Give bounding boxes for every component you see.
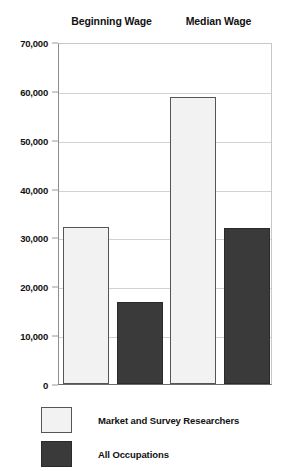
legend-item: All Occupations bbox=[41, 440, 271, 468]
y-axis-label: 60,000 bbox=[20, 86, 48, 97]
wage-comparison-bar-chart: Beginning Wage Median Wage 70,00060,0005… bbox=[0, 0, 283, 471]
y-axis: 70,00060,00050,00040,00030,00020,00010,0… bbox=[0, 43, 58, 385]
legend-label: All Occupations bbox=[98, 449, 169, 460]
category-header-row: Beginning Wage Median Wage bbox=[58, 14, 272, 34]
legend-swatch bbox=[41, 441, 72, 467]
bar bbox=[224, 228, 270, 384]
bar bbox=[170, 97, 216, 384]
legend-swatch bbox=[41, 407, 72, 433]
bar bbox=[117, 302, 163, 384]
bar bbox=[63, 227, 109, 384]
y-axis-label: 0 bbox=[43, 380, 48, 391]
y-axis-label: 20,000 bbox=[20, 282, 48, 293]
plot-area-wrapper bbox=[58, 43, 272, 385]
legend-label: Market and Survey Researchers bbox=[98, 415, 239, 426]
y-axis-label: 10,000 bbox=[20, 331, 48, 342]
y-axis-label: 40,000 bbox=[20, 184, 48, 195]
category-header-median-wage: Median Wage bbox=[165, 14, 272, 34]
y-axis-label: 30,000 bbox=[20, 233, 48, 244]
y-axis-label: 70,000 bbox=[20, 38, 48, 49]
y-axis-label: 50,000 bbox=[20, 135, 48, 146]
category-header-beginning-wage: Beginning Wage bbox=[58, 14, 165, 34]
chart-legend: Market and Survey ResearchersAll Occupat… bbox=[41, 406, 271, 471]
legend-item: Market and Survey Researchers bbox=[41, 406, 271, 434]
bar-group-container bbox=[59, 44, 271, 384]
